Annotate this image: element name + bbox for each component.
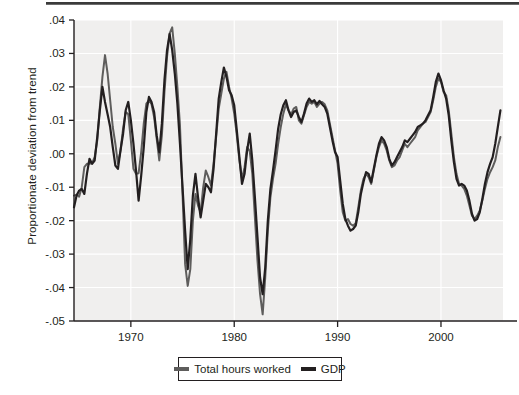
y-tick-label: -.05 xyxy=(45,315,65,327)
legend-swatch-gdp xyxy=(301,367,316,370)
y-tick-label: .02 xyxy=(49,81,65,93)
legend-label-gdp: GDP xyxy=(321,363,346,375)
y-tick-label: .00 xyxy=(49,148,65,160)
legend-item-total-hours-worked: Total hours worked xyxy=(174,363,291,375)
x-tick-label: 1990 xyxy=(325,331,351,343)
x-tick-label: 1980 xyxy=(221,331,247,343)
y-tick-label: -.02 xyxy=(45,215,65,227)
figure-root: Proportionate deviation from trend -.05-… xyxy=(0,0,519,395)
plot-area-wrapper: -.05-.04-.03-.02-.01.00.01.02.03.0419701… xyxy=(0,0,519,395)
y-tick-label: -.01 xyxy=(45,181,65,193)
line-chart: -.05-.04-.03-.02-.01.00.01.02.03.0419701… xyxy=(0,0,519,345)
legend-label-total-hours-worked: Total hours worked xyxy=(194,363,291,375)
legend-swatch-total-hours-worked xyxy=(174,367,189,370)
y-tick-label: .04 xyxy=(49,14,66,26)
y-tick-label: -.04 xyxy=(45,282,65,294)
y-tick-label: .03 xyxy=(49,47,65,59)
x-tick-label: 1970 xyxy=(118,331,144,343)
y-tick-label: -.03 xyxy=(45,248,65,260)
y-tick-label: .01 xyxy=(49,114,65,126)
chart-legend: Total hours worked GDP xyxy=(178,357,342,381)
legend-item-gdp: GDP xyxy=(301,363,346,375)
x-tick-label: 2000 xyxy=(428,331,454,343)
